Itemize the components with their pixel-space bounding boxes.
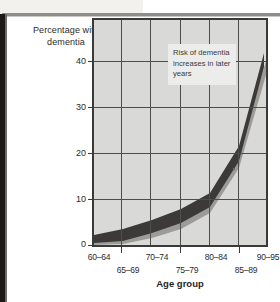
y-tick-label-40: 40 [64,56,86,66]
x-tick-mark-85-89 [239,247,240,253]
x-tick-label-90-95: 90–95 [248,252,280,262]
annotation-callout: Risk of dementia increases in later year… [168,44,236,85]
x-tick-label-65-69: 65–69 [108,265,148,275]
scan-speck [233,168,235,170]
y-tick-label-0: 0 [64,239,86,249]
dementia-percentage-chart: Percentage with dementia 40 30 20 10 0 [0,0,280,302]
gridline-horizontal-10 [94,199,266,200]
y-tick-label-20: 20 [64,148,86,158]
x-tick-label-60-64: 60–64 [79,252,119,262]
x-tick-mark-75-79 [180,247,181,253]
x-axis-label: Age group [112,278,248,289]
y-tick-label-10: 10 [64,194,86,204]
x-tick-label-75-79: 75–79 [167,265,207,275]
gridline-vertical-70-74 [150,20,151,245]
x-tick-label-80-84: 80–84 [196,252,236,262]
gridline-vertical-85-89 [238,20,239,245]
gridline-horizontal-30 [94,107,266,108]
x-tick-label-85-89: 85–89 [226,265,266,275]
gridline-horizontal-20 [94,153,266,154]
y-tick-label-30: 30 [64,102,86,112]
gridline-vertical-65-69 [121,20,122,245]
x-tick-mark-65-69 [121,247,122,253]
x-tick-label-70-74: 70–74 [137,252,177,262]
